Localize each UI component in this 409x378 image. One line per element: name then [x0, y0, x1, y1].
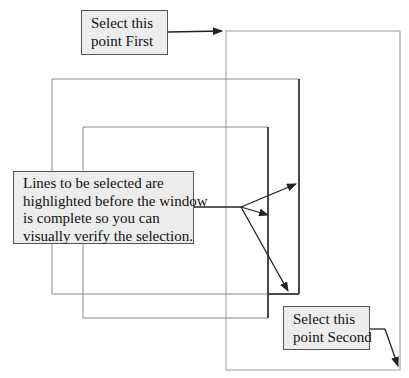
callout-line: point Second: [293, 329, 369, 347]
callout-select-first: Select this point First: [81, 10, 168, 55]
callout-select-second: Select this point Second: [283, 306, 370, 350]
callout-line: is complete so you can: [23, 210, 193, 228]
callout-line: Select this: [91, 15, 167, 33]
first-point-arrow: [168, 31, 222, 32]
second-point-arrow: [370, 329, 398, 366]
highlight-arrows: [194, 184, 296, 291]
callout-line: highlighted before the window: [23, 193, 193, 211]
callout-line: point First: [91, 33, 167, 51]
callout-highlight-note: Lines to be selected are highlighted bef…: [13, 171, 194, 244]
callout-line: Select this: [293, 311, 369, 329]
callout-line: visually verify the selection.: [23, 228, 193, 246]
callout-line: Lines to be selected are: [23, 175, 193, 193]
